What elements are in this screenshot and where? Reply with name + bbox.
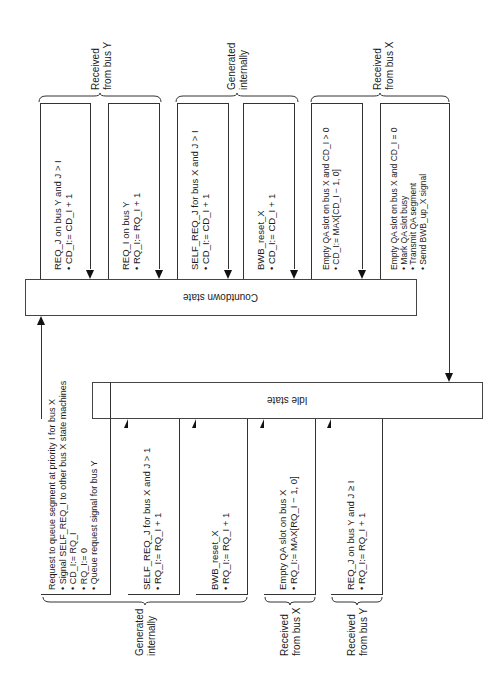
arrow-down-icon	[155, 270, 163, 279]
group-label-received-bus-x: Receivedfrom bus X	[372, 42, 396, 90]
countdown-state-label: Countdown state	[183, 292, 258, 303]
transition-label-bottom-2: SELF_REQ_J for bus X and J > 1RQ_I:= RQ_…	[141, 448, 163, 590]
transition-label-top-4: BWB_reset_XCD_I:= CD_I + 1	[255, 194, 277, 270]
transition-label-bottom-4: Empty QA slot on bus XRQ_I:= MAX[RQ_I − …	[277, 476, 299, 590]
arrow-down-icon	[86, 270, 94, 279]
transition-label-bottom-3: BWB_reset_XRQ_I:= RQ_I + 1	[209, 513, 231, 590]
countdown-state: Countdown state	[25, 279, 417, 316]
brace-top-generated-internally	[175, 93, 299, 103]
transition-label-top-2: REQ_I on bus YRQ_I:= RQ_I + 1	[120, 193, 142, 270]
idle-state: Idle state	[92, 382, 483, 419]
transition-label-top-6: Empty QA slot on bus X and CD_I = 0Mark …	[390, 128, 428, 270]
group-label-received-bus-x-bottom: Receivedfrom bus X	[279, 608, 303, 656]
group-label-received-bus-y: Receivedfrom bus Y	[90, 42, 114, 90]
group-label-generated-internally: Generatedinternally	[226, 43, 250, 90]
arrow-down-icon	[358, 270, 366, 279]
brace-bottom-received-bus-x	[264, 596, 316, 606]
transition-label-top-1: REQ_J on bus Y and J > ICD_I:= CD_I + 1	[52, 160, 74, 270]
brace-bottom-generated-internally	[42, 596, 248, 606]
arrow-down-icon	[290, 270, 298, 279]
group-label-generated-internally-bottom: Generatedinternally	[134, 609, 158, 656]
brace-top-received-bus-x	[310, 93, 450, 103]
transition-label-bottom-5: REQ_J on bus Y and J ≥ IRQ_I:= RQ_I + 1	[345, 481, 367, 590]
transition-label-top-5: Empty QA slot on bus X and CD_I > 0CD_I:…	[322, 128, 341, 270]
arrow-down-icon	[224, 270, 232, 279]
arrow-down-icon	[445, 373, 453, 382]
transition-label-bottom-1: Request to queue segment at priority I f…	[47, 381, 100, 590]
arrow-up-icon	[37, 316, 45, 325]
brace-top-received-bus-y	[38, 93, 162, 103]
transition-label-top-3: SELF_REQ_J for bus X and J > ICD_I:= CD_…	[189, 130, 211, 270]
idle-state-label: Idle state	[267, 395, 308, 406]
group-label-received-bus-y-bottom: Receivedfrom bus Y	[346, 608, 370, 656]
brace-bottom-received-bus-y	[331, 596, 383, 606]
